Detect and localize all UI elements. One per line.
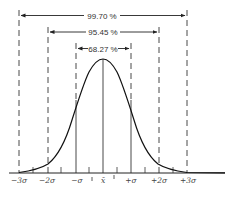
- label-minus-2sigma: −2σ: [39, 176, 56, 185]
- label-plus-3sigma: +3σ: [180, 176, 197, 185]
- solid-verticals: [76, 59, 131, 173]
- axis-labels: −3σ −2σ −σ x̄ +σ +2σ +3σ: [11, 176, 197, 185]
- label-mean: x̄: [101, 176, 106, 185]
- label-plus-2sigma: +2σ: [151, 176, 168, 185]
- label-68-27: 68.27 %: [88, 45, 117, 54]
- normal-distribution-figure: 99.70 % 95.45 % 68.27 % −3σ −2σ −σ x̄ +σ…: [0, 0, 227, 198]
- label-99-70: 99.70 %: [87, 12, 116, 21]
- label-plus-sigma: +σ: [125, 176, 137, 185]
- label-95-45: 95.45 %: [88, 28, 117, 37]
- label-minus-3sigma: −3σ: [11, 176, 28, 185]
- label-minus-sigma: −σ: [71, 176, 83, 185]
- normal-curve: [19, 59, 225, 173]
